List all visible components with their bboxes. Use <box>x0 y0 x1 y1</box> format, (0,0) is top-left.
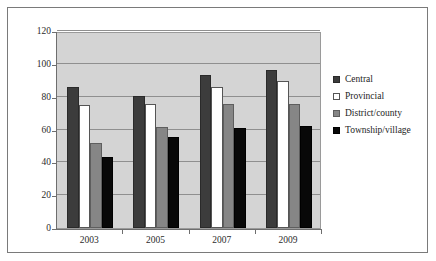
gridline <box>57 30 320 31</box>
x-tick-label-2003: 2003 <box>69 236 109 246</box>
bar-provincial-2009 <box>277 81 289 228</box>
bar-central-2005 <box>133 96 145 228</box>
plot-area <box>56 32 321 229</box>
legend-swatch-icon <box>333 110 340 117</box>
bar-provincial-2005 <box>145 104 157 228</box>
bar-district-county-2009 <box>289 104 301 228</box>
bar-provincial-2007 <box>211 87 223 228</box>
y-tick-label: 80 <box>11 93 51 103</box>
y-tick-label: 100 <box>11 60 51 70</box>
bar-township-village-2007 <box>234 128 246 228</box>
bar-township-village-2005 <box>168 137 180 228</box>
x-tick-mark <box>189 230 190 234</box>
legend-label: District/county <box>345 109 402 119</box>
gridline <box>57 63 320 64</box>
chart-legend: CentralProvincialDistrict/countyTownship… <box>333 71 428 139</box>
legend-item-district-county[interactable]: District/county <box>333 105 428 122</box>
y-axis-line <box>56 32 57 230</box>
x-tick-mark <box>122 230 123 234</box>
legend-item-central[interactable]: Central <box>333 71 428 88</box>
bar-central-2003 <box>67 87 79 228</box>
bar-central-2009 <box>266 70 278 228</box>
y-tick-label: 20 <box>11 191 51 201</box>
y-tick-mark <box>52 229 56 230</box>
legend-swatch-icon <box>333 127 340 134</box>
bar-central-2007 <box>200 75 212 228</box>
y-tick-label: 0 <box>11 224 51 234</box>
y-tick-label: 60 <box>11 126 51 136</box>
x-tick-label-2009: 2009 <box>268 236 308 246</box>
y-tick-mark <box>52 196 56 197</box>
x-tick-mark <box>255 230 256 234</box>
bar-district-county-2007 <box>223 104 235 228</box>
legend-label: Central <box>345 75 373 85</box>
x-tick-label-2007: 2007 <box>202 236 242 246</box>
bar-township-village-2009 <box>300 126 312 228</box>
y-tick-mark <box>52 98 56 99</box>
y-tick-label: 120 <box>11 27 51 37</box>
legend-item-provincial[interactable]: Provincial <box>333 88 428 105</box>
bar-township-village-2003 <box>102 157 114 228</box>
legend-label: Township/village <box>345 126 411 136</box>
y-axis-labels: 020406080100120 <box>8 8 51 254</box>
legend-swatch-icon <box>333 76 340 83</box>
y-tick-mark <box>52 163 56 164</box>
bar-provincial-2003 <box>79 105 91 228</box>
y-tick-mark <box>52 131 56 132</box>
x-tick-label-2005: 2005 <box>135 236 175 246</box>
legend-item-township-village[interactable]: Township/village <box>333 122 428 139</box>
legend-swatch-icon <box>333 93 340 100</box>
y-tick-mark <box>52 32 56 33</box>
bar-district-county-2003 <box>90 143 102 228</box>
bar-district-county-2005 <box>156 127 168 228</box>
y-tick-label: 40 <box>11 158 51 168</box>
legend-label: Provincial <box>345 92 384 102</box>
chart-figure: 020406080100120 2003200520072009 Central… <box>7 7 428 253</box>
x-tick-mark <box>321 230 322 234</box>
y-tick-mark <box>52 65 56 66</box>
